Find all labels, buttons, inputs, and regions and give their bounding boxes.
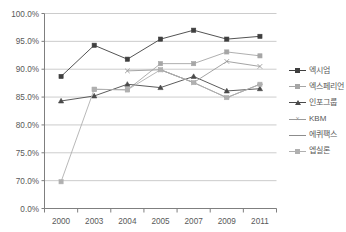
data-point (192, 62, 196, 66)
legend-marker-icon (289, 98, 306, 107)
legend-item-5[interactable]: 에퀴팩스 (289, 131, 344, 140)
x-tick-label: 2007 (185, 217, 204, 226)
legend-label: 인포그룹 (309, 99, 337, 107)
x-tick-label: 2004 (118, 217, 137, 226)
data-point (258, 34, 262, 38)
series-layer (58, 28, 262, 184)
data-point (92, 43, 96, 47)
y-tick-label: 95.0% (16, 37, 39, 46)
data-point (125, 57, 129, 61)
data-point (258, 54, 262, 58)
data-point (125, 82, 130, 87)
x-tick-label: 2003 (85, 217, 104, 226)
legend-marker-icon (289, 131, 306, 140)
data-point (225, 96, 229, 100)
y-tick-label: 85.0% (16, 93, 39, 102)
data-point (125, 88, 129, 92)
y-axis-tick-labels: 100.0%95.0%90.0%85.0%80.0%75.0%70.0%0.0% (11, 10, 44, 214)
data-point (158, 68, 162, 72)
data-point (192, 28, 196, 32)
x-tick-label: 2011 (251, 217, 269, 226)
x-tick-label: 2000 (52, 217, 71, 226)
axis-lines (45, 14, 277, 209)
gridlines (45, 14, 277, 209)
series-line (94, 52, 260, 90)
y-tick-label: 90.0% (16, 65, 39, 74)
data-point (92, 87, 96, 91)
x-tick-label: 2009 (218, 217, 237, 226)
legend-item-6[interactable]: 엡실론 (289, 147, 344, 156)
series-2 (92, 50, 262, 92)
legend-marker-icon (289, 66, 306, 75)
legend-marker-icon (289, 82, 306, 91)
y-tick-label: 80.0% (16, 121, 39, 130)
y-tick-label: 70.0% (16, 177, 39, 186)
legend-label: KBM (309, 115, 326, 123)
legend-item-4[interactable]: ×KBM (289, 115, 344, 124)
data-point (258, 82, 262, 86)
chart-legend: 엑시엄엑스페리언인포그룹×KBM에퀴팩스엡실론 (289, 66, 344, 156)
y-tick-label: 0.0% (20, 205, 39, 214)
data-point (158, 37, 162, 41)
legend-label: 엑스페리언 (309, 83, 344, 91)
data-point (225, 50, 229, 54)
legend-marker-icon (289, 147, 306, 156)
data-point (191, 74, 196, 79)
y-tick-label: 75.0% (16, 149, 39, 158)
data-point (59, 180, 63, 184)
legend-marker-icon: × (289, 115, 306, 124)
data-point (192, 80, 196, 84)
legend-item-1[interactable]: 엑시엄 (289, 66, 344, 75)
x-tick-label: 2005 (151, 217, 170, 226)
x-axis-tick-marks (45, 209, 277, 213)
line-chart: 100.0%95.0%90.0%85.0%80.0%75.0%70.0%0.0%… (0, 0, 346, 232)
series-3 (58, 74, 262, 103)
x-axis-tick-labels: 2000200320042005200720092011 (52, 217, 269, 226)
legend-item-3[interactable]: 인포그룹 (289, 98, 344, 107)
legend-item-2[interactable]: 엑스페리언 (289, 82, 344, 91)
legend-label: 엑시엄 (309, 67, 330, 75)
data-point (158, 62, 162, 66)
y-tick-label: 100.0% (11, 10, 39, 19)
data-point (59, 74, 63, 78)
data-point (225, 37, 229, 41)
legend-label: 엡실론 (309, 147, 330, 155)
legend-label: 에퀴팩스 (309, 131, 337, 139)
